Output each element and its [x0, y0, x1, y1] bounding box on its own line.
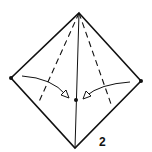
center-point-dot	[74, 98, 78, 102]
left-vertex-dot	[9, 76, 13, 80]
step-number-label: 2	[99, 136, 106, 148]
left-valley-fold-line	[38, 13, 79, 104]
origami-diagram	[0, 0, 152, 152]
center-crease-line	[75, 13, 79, 148]
right-vertex-dot	[139, 79, 143, 83]
